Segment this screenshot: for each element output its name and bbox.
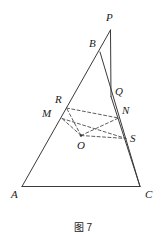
point-label-a: A	[11, 189, 18, 200]
point-label-q: Q	[115, 86, 123, 97]
point-dots-group	[80, 134, 83, 137]
point-label-m: M	[42, 108, 51, 119]
figure-caption: 图 7	[0, 219, 166, 234]
dash-O-M	[62, 119, 81, 136]
dash-M-S	[62, 119, 126, 139]
point-label-o: O	[77, 140, 85, 151]
point-label-s: S	[130, 133, 136, 144]
point-dot-o	[80, 134, 83, 137]
geometry-diagram-canvas	[0, 0, 166, 241]
point-label-c: C	[145, 189, 152, 200]
point-label-n: N	[122, 105, 129, 116]
dash-R-N	[67, 108, 119, 118]
point-label-p: P	[106, 12, 113, 23]
point-label-r: R	[55, 94, 62, 105]
dash-O-N	[81, 118, 119, 136]
point-label-b: B	[89, 38, 96, 49]
geometry-figure: PBQNSRMOAC 图 7	[0, 0, 166, 241]
